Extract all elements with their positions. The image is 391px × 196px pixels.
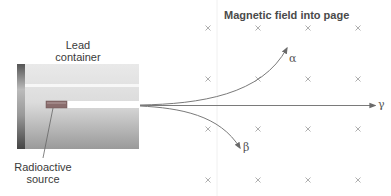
field-marker-x-icon: [256, 178, 261, 183]
field-marker-x-icon: [206, 178, 211, 183]
lead-container-label-line1: Lead: [48, 39, 108, 51]
field-markers: [206, 26, 361, 183]
beam-channel: [67, 101, 139, 108]
beta-ray: [140, 106, 240, 148]
lead-container-label: Lead container: [48, 39, 108, 63]
alpha-ray: [140, 48, 287, 105]
lead-container-label-line2: container: [48, 51, 108, 63]
radioactive-source-label-line2: source: [11, 173, 75, 185]
field-marker-x-icon: [206, 127, 211, 132]
field-marker-x-icon: [306, 127, 311, 132]
field-marker-x-icon: [206, 77, 211, 82]
field-marker-x-icon: [306, 178, 311, 183]
radioactive-source-label: Radioactive source: [11, 161, 75, 185]
field-marker-x-icon: [256, 26, 261, 31]
field-title: Magnetic field into page: [224, 9, 349, 21]
field-marker-x-icon: [356, 26, 361, 31]
radioactive-source-label-line1: Radioactive: [11, 161, 75, 173]
radioactive-source: [46, 101, 67, 108]
field-marker-x-icon: [306, 77, 311, 82]
field-marker-x-icon: [356, 178, 361, 183]
field-marker-x-icon: [256, 127, 261, 132]
gamma-label: γ: [378, 98, 385, 111]
container-edge: [17, 64, 25, 149]
field-marker-x-icon: [306, 26, 311, 31]
lead-container: [17, 64, 139, 149]
alpha-label: α: [289, 52, 296, 65]
field-marker-x-icon: [356, 127, 361, 132]
field-marker-x-icon: [356, 77, 361, 82]
field-marker-x-icon: [206, 26, 211, 31]
beta-label: β: [243, 141, 249, 154]
